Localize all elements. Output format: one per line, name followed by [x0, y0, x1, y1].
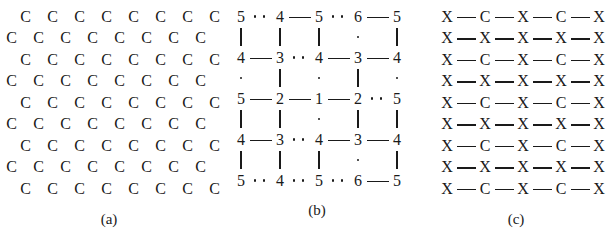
- panel-a-row: CCCCCCCC: [0, 49, 228, 71]
- panel-c-row: XCXCX: [439, 92, 608, 114]
- lattice-atom-c: C: [120, 52, 147, 68]
- horizontal-bond-solid: [532, 138, 553, 154]
- panel-b-node-row: 43434: [234, 129, 405, 150]
- horizontal-bond-solid: [532, 159, 553, 175]
- horizontal-bond-solid: [532, 30, 553, 46]
- horizontal-bond-solid: [456, 138, 477, 154]
- lattice-atom-c: C: [93, 138, 120, 154]
- lattice-atom-x: X: [515, 181, 532, 197]
- panel-c-row: XCXCX: [439, 178, 608, 200]
- horizontal-bond-solid: [456, 159, 477, 175]
- lattice-atom-c: C: [79, 73, 106, 89]
- panel-a-lattice: CCCCCCCCCCCCCCCCCCCCCCCCCCCCCCCCCCCCCCCC…: [0, 6, 228, 200]
- lattice-atom-c: C: [174, 52, 201, 68]
- bond-spacer: [327, 109, 351, 129]
- lattice-node-number: 4: [234, 50, 249, 66]
- lattice-atom-c: C: [160, 116, 187, 132]
- bond-spacer: [327, 27, 351, 47]
- panel-a-row: CCCCCCCC: [0, 28, 214, 50]
- lattice-node-number: 5: [234, 91, 249, 107]
- figure-container: CCCCCCCCCCCCCCCCCCCCCCCCCCCCCCCCCCCCCCCC…: [0, 0, 616, 242]
- lattice-atom-c: C: [174, 138, 201, 154]
- lattice-atom-c: C: [133, 159, 160, 175]
- horizontal-bond-solid: [570, 52, 591, 68]
- lattice-atom-c: C: [39, 95, 66, 111]
- lattice-atom-c: C: [93, 95, 120, 111]
- lattice-atom-c: C: [39, 138, 66, 154]
- lattice-atom-c: C: [133, 73, 160, 89]
- lattice-atom-c: C: [106, 30, 133, 46]
- bond-spacer: [249, 68, 273, 88]
- bond-spacer: [366, 150, 390, 170]
- vertical-bond-solid: [234, 109, 249, 129]
- vertical-bond-solid: [390, 109, 405, 129]
- lattice-node-number: 1: [312, 91, 327, 107]
- horizontal-bond-solid: [570, 73, 591, 89]
- lattice-node-number: 6: [351, 173, 366, 189]
- bond-spacer: [249, 150, 273, 170]
- panel-c-row: XCXCX: [439, 6, 608, 28]
- panel-c-row: XCXCX: [439, 135, 608, 157]
- lattice-node-number: 3: [273, 132, 288, 148]
- panel-b-link-row: [234, 68, 405, 88]
- lattice-atom-c: C: [147, 138, 174, 154]
- lattice-atom-x: X: [439, 95, 456, 111]
- lattice-atom-x: X: [515, 9, 532, 25]
- lattice-atom-c: C: [120, 95, 147, 111]
- lattice-node-number: 5: [390, 173, 405, 189]
- vertical-bond-solid: [273, 68, 288, 88]
- lattice-atom-c: C: [25, 116, 52, 132]
- lattice-atom-x: X: [439, 52, 456, 68]
- lattice-node-number: 3: [273, 50, 288, 66]
- vertical-bond-dotted: [351, 150, 366, 170]
- vertical-bond-dotted: [234, 68, 249, 88]
- lattice-atom-c: C: [187, 159, 214, 175]
- lattice-atom-c: C: [0, 30, 25, 46]
- horizontal-bond-solid: [494, 138, 515, 154]
- horizontal-bond-solid: [456, 181, 477, 197]
- lattice-atom-c: C: [147, 181, 174, 197]
- lattice-atom-c: C: [79, 30, 106, 46]
- lattice-node-number: 3: [351, 50, 366, 66]
- panel-b-node-row: 54565: [234, 6, 405, 27]
- lattice-node-number: 6: [351, 9, 366, 25]
- lattice-atom-c: C: [120, 181, 147, 197]
- panel-b-node-row: 43434: [234, 47, 405, 68]
- panel-b-node-row: 52125: [234, 88, 405, 109]
- horizontal-bond-solid: [494, 116, 515, 132]
- lattice-atom-c: C: [106, 116, 133, 132]
- lattice-atom-c: C: [25, 30, 52, 46]
- lattice-atom-c: C: [66, 95, 93, 111]
- lattice-node-number: 5: [390, 91, 405, 107]
- vertical-bond-solid: [390, 27, 405, 47]
- horizontal-bond-solid: [494, 9, 515, 25]
- vertical-bond-solid: [234, 150, 249, 170]
- vertical-bond-solid: [312, 27, 327, 47]
- vertical-bond-solid: [390, 150, 405, 170]
- panel-a-row: CCCCCCCC: [0, 71, 214, 93]
- panel-b-caption: (b): [308, 203, 326, 218]
- lattice-atom-x: X: [515, 159, 532, 175]
- horizontal-bond-solid: [456, 73, 477, 89]
- horizontal-bond-solid: [456, 9, 477, 25]
- bond-spacer: [288, 109, 312, 129]
- panel-a-row: CCCCCCCC: [0, 157, 214, 179]
- lattice-atom-c: C: [160, 159, 187, 175]
- lattice-atom-c: C: [174, 9, 201, 25]
- lattice-atom-x: X: [553, 30, 570, 46]
- lattice-atom-c: C: [160, 30, 187, 46]
- horizontal-bond-solid: [456, 30, 477, 46]
- lattice-atom-x: X: [439, 30, 456, 46]
- lattice-atom-c: C: [66, 9, 93, 25]
- vertical-bond-solid: [273, 150, 288, 170]
- lattice-atom-x: X: [591, 30, 608, 46]
- panel-c: XCXCXXXXXXXCXCXXXXXXXCXCXXXXXXXCXCXXXXXX…: [416, 0, 616, 227]
- lattice-atom-c: C: [39, 52, 66, 68]
- lattice-atom-x: X: [591, 159, 608, 175]
- horizontal-bond-solid: [494, 181, 515, 197]
- panel-c-caption: (c): [508, 212, 525, 227]
- lattice-atom-c: C: [39, 9, 66, 25]
- lattice-atom-c: C: [0, 116, 25, 132]
- horizontal-bond-solid: [456, 95, 477, 111]
- lattice-atom-c: C: [66, 52, 93, 68]
